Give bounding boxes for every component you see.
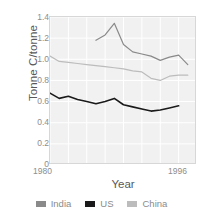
plot-area [49,16,196,164]
chart-figure: Tonne C/tonne 1.4 1.2 1.0 0.8 0.6 0.4 0.… [0,0,203,220]
x-axis-title: Year [49,178,197,190]
legend-item-us[interactable]: US [85,198,113,209]
legend-swatch-us [85,201,95,207]
y-tick-label: 0.4 [9,118,49,127]
x-tick-label: 1996 [168,167,187,176]
y-tick-label: 0.8 [9,76,49,85]
legend-swatch-india [36,201,46,207]
y-tick-label: 1.2 [9,34,49,43]
gridlines [50,17,196,164]
y-tick-label: 1.0 [9,55,49,64]
y-tick-label: 0.2 [9,139,49,148]
y-tick-label: 0.6 [9,97,49,106]
legend-item-china[interactable]: China [127,198,167,209]
legend-label-india: India [51,198,72,209]
x-tick-label: 1980 [33,167,52,176]
legend-swatch-china [127,201,137,207]
legend-label-china: China [142,198,167,209]
series-line-us [50,93,179,111]
y-tick-label: 1.4 [9,13,49,22]
plot-svg [50,17,196,164]
legend-label-us: US [100,198,113,209]
legend-item-india[interactable]: India [36,198,72,209]
chart-legend: India US China [0,198,203,209]
